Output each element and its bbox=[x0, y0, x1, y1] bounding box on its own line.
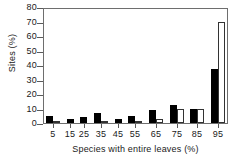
bar-group bbox=[211, 9, 225, 123]
bar-chart-figure: Sites (%) 01020304050607080 515253545556… bbox=[0, 0, 233, 158]
bar-group bbox=[190, 9, 204, 123]
x-tick-mark bbox=[177, 124, 178, 128]
bar-solid-95 bbox=[211, 69, 218, 123]
x-tick-mark bbox=[101, 124, 102, 128]
bar-open-85 bbox=[197, 109, 204, 124]
bar-group bbox=[128, 9, 142, 123]
bar-solid-65 bbox=[149, 110, 156, 123]
y-tick-mark bbox=[37, 124, 43, 125]
bar-group bbox=[94, 9, 108, 123]
bar-group bbox=[115, 9, 122, 123]
bar-group bbox=[170, 9, 184, 123]
y-tick-label: 20 bbox=[26, 89, 37, 99]
bar-solid-15 bbox=[67, 119, 74, 123]
bar-group bbox=[149, 9, 163, 123]
x-tick-mark bbox=[197, 124, 198, 128]
y-tick-label: 80 bbox=[26, 2, 37, 12]
y-tick-label: 40 bbox=[26, 60, 37, 70]
y-tick-label: 50 bbox=[26, 46, 37, 56]
bar-solid-45 bbox=[115, 119, 122, 123]
x-axis-title: Species with entire leaves (%) bbox=[43, 144, 228, 154]
x-tick-mark bbox=[118, 124, 119, 128]
bar-open-55 bbox=[135, 121, 142, 123]
bar-open-5 bbox=[53, 121, 60, 123]
y-tick-label: 30 bbox=[26, 75, 37, 85]
bar-group bbox=[67, 9, 74, 123]
x-tick-mark bbox=[70, 124, 71, 128]
bar-solid-5 bbox=[46, 116, 53, 123]
y-axis-title: Sites (%) bbox=[7, 18, 17, 88]
y-tick-label: 10 bbox=[26, 104, 37, 114]
bar-open-35 bbox=[101, 121, 108, 123]
x-tick-label: 85 bbox=[187, 129, 207, 139]
bar-group bbox=[46, 9, 60, 123]
plot-area bbox=[43, 8, 228, 124]
y-tick-label: 60 bbox=[26, 31, 37, 41]
y-tick-label: 0 bbox=[32, 118, 37, 128]
bar-solid-85 bbox=[190, 109, 197, 124]
x-tick-label: 65 bbox=[146, 129, 166, 139]
x-tick-label: 55 bbox=[125, 129, 145, 139]
bar-open-95 bbox=[218, 22, 225, 124]
x-tick-mark bbox=[156, 124, 157, 128]
bar-solid-35 bbox=[94, 113, 101, 123]
bar-open-75 bbox=[177, 109, 184, 124]
bar-solid-25 bbox=[80, 117, 87, 123]
bar-solid-75 bbox=[170, 105, 177, 123]
bar-open-65 bbox=[156, 119, 163, 123]
bar-solid-55 bbox=[128, 116, 135, 123]
x-tick-mark bbox=[84, 124, 85, 128]
y-tick-label: 70 bbox=[26, 17, 37, 27]
bar-group bbox=[80, 9, 87, 123]
x-tick-label: 95 bbox=[208, 129, 228, 139]
bar-series-container bbox=[44, 9, 227, 123]
x-tick-label: 75 bbox=[167, 129, 187, 139]
x-tick-mark bbox=[135, 124, 136, 128]
x-tick-mark bbox=[53, 124, 54, 128]
x-tick-mark bbox=[218, 124, 219, 128]
